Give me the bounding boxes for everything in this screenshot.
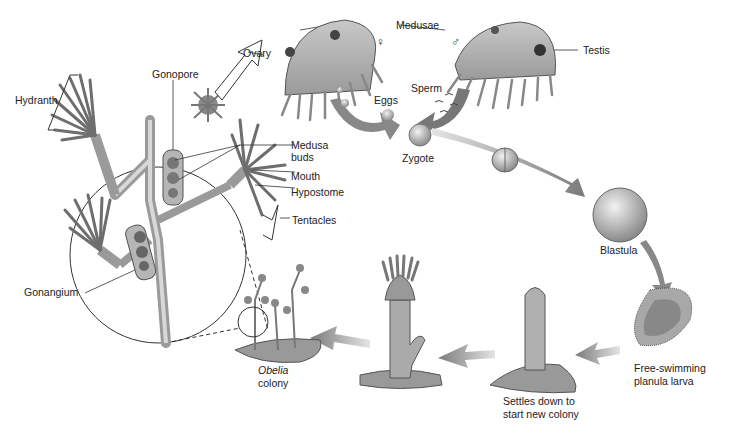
label-sperm: Sperm [411,82,442,94]
label-planula-1: Free-swimming [634,362,706,374]
cleavage-embryo [492,148,518,172]
female-symbol-icon: ♀ [376,36,385,48]
label-gonangium: Gonangium [24,286,78,298]
label-mouth: Mouth [291,170,320,182]
blastula [593,188,647,242]
planula-to-settled-arrow [575,342,620,365]
zygote [409,124,431,146]
label-gonopore: Gonopore [152,68,199,80]
male-symbol-icon: ♂ [451,36,460,48]
label-medusae: Medusae [396,19,439,31]
gonangium-upper [163,150,183,205]
label-colony: colony [258,377,288,389]
label-zygote: Zygote [402,152,434,164]
hydranth-right [230,120,285,215]
label-planula-2: planula larva [634,375,694,387]
label-obelia: Obelia [258,364,288,376]
obelia-colony [235,264,321,363]
label-settles-2: start new colony [503,408,579,420]
planula-larva [634,288,691,346]
label-eggs: Eggs [374,94,398,106]
female-medusa [282,20,382,120]
label-testis: Testis [583,44,610,56]
young-polyp [360,256,442,389]
hydranth-lower-left [65,195,120,265]
label-hypostome: Hypostome [291,186,344,198]
hydranth-upper-left [52,75,115,195]
label-ovary: Ovary [243,47,271,59]
label-hydranth: Hydranth [15,94,58,106]
colony-magnify-circle [238,307,268,337]
tentacles-bracket [263,205,278,240]
label-medusa-buds-1: Medusa [291,139,328,151]
settled-to-polyp-arrow [438,344,495,368]
settled-larva [490,288,576,393]
label-tentacles: Tentacles [292,214,336,226]
label-medusa-buds-2: buds [291,151,314,163]
label-blastula: Blastula [600,244,637,256]
life-cycle-illustration [0,0,735,434]
label-settles-1: Settles down to [503,395,575,407]
